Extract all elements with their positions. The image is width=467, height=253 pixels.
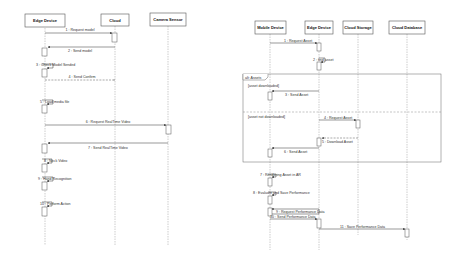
participant-cloud: Cloud: [101, 14, 129, 26]
participant-label: Cloud Database: [392, 25, 423, 30]
alt-guard: [asset not downloaded]: [248, 115, 285, 119]
participant-label: Edge Device: [307, 25, 332, 30]
message-label: 9 : Hand Recognition: [38, 177, 72, 181]
activation-bar: [317, 43, 321, 51]
message-10: 10 : Perform Action: [40, 202, 71, 206]
alt-frame-label: alt: Assets: [245, 76, 262, 80]
message-label: 1 : Request Asset: [284, 39, 312, 43]
message-label: 2 : find asset: [313, 58, 333, 62]
message-label: 6 : Request RealTime Video: [86, 120, 131, 124]
message-label: 11 : Save Performance Data: [340, 225, 385, 229]
message-6: 6 : Send Asset: [272, 148, 319, 154]
message-label: 4 : Request Asset: [324, 116, 352, 120]
alt-guard: [asset downloaded]: [248, 84, 279, 88]
participant-label: Camera Sensor: [153, 17, 183, 22]
sequence-diagrams-canvas: Edge Device Cloud Camera Sensor 1 : Requ…: [0, 0, 467, 253]
message-10: 10 : Send Performance Data: [270, 215, 317, 219]
message-label: 10 : Perform Action: [40, 202, 71, 206]
activation-bar: [42, 48, 47, 56]
activation-bar: [268, 196, 272, 204]
message-3: 3 : Send Asset: [272, 91, 319, 97]
activation-bar: [42, 164, 47, 172]
message-1: 1 : Request Asset: [270, 39, 317, 43]
message-label: 3 : Check Model Sended: [36, 63, 75, 67]
message-label: 5 : Download Asset: [322, 140, 353, 144]
participant-label: Mobile Device: [257, 25, 284, 30]
message-label: 3 : Send Asset: [285, 93, 308, 97]
message-label: 9 : Request Performance Data: [276, 210, 325, 214]
message-3: 3 : Check Model Sended: [36, 63, 75, 68]
message-8: 8 : Neck Video: [42, 159, 67, 163]
message-label: 7 : Rendering Asset in AR: [260, 173, 301, 177]
activation-bar: [405, 229, 409, 237]
participant-cloud-database: Cloud Database: [389, 21, 425, 34]
activation-bar: [112, 33, 117, 42]
message-8: 8 : Evaluate and Save Performance: [253, 191, 310, 195]
message-9: 9 : Request Performance Data: [268, 209, 325, 214]
message-9: 9 : Hand Recognition: [38, 177, 72, 181]
activation-bar: [268, 178, 272, 186]
message-label: 2 : Send model: [68, 49, 92, 53]
message-label: 8 : Evaluate and Save Performance: [253, 191, 310, 195]
message-label: 10 : Send Performance Data: [270, 215, 316, 219]
activation-bar: [42, 144, 47, 153]
message-label: 1 : Request model: [65, 28, 94, 32]
participant-camera-sensor: Camera Sensor: [150, 13, 186, 26]
message-label: 7 : Send RealTime Video: [88, 146, 128, 150]
message-label: 4 : Send Confirm: [69, 75, 96, 79]
activation-bar: [268, 149, 272, 157]
activation-bar: [356, 120, 360, 128]
activation-bar: [42, 69, 47, 77]
participant-label: Cloud: [109, 18, 121, 23]
participant-cloud-storage: Cloud Storage: [343, 21, 373, 34]
message-2: 2 : Send model: [48, 47, 115, 53]
message-4: 4 : Request Asset: [319, 116, 356, 121]
message-label: 5 : Load media file: [40, 100, 69, 104]
participant-label: Cloud Storage: [344, 25, 372, 30]
participant-mobile-device: Mobile Device: [255, 21, 286, 34]
message-2: 2 : find asset: [313, 58, 333, 62]
activation-bar: [42, 182, 47, 190]
activation-bar: [317, 138, 321, 146]
participant-edge-device: Edge Device: [25, 14, 65, 27]
right-sequence-diagram: Mobile Device Edge Device Cloud Storage …: [243, 21, 441, 250]
message-6: 6 : Request RealTime Video: [45, 120, 166, 125]
participant-edge-device: Edge Device: [305, 21, 333, 34]
message-7: 7 : Rendering Asset in AR: [260, 173, 301, 177]
activation-bar: [166, 125, 171, 134]
activation-bar: [317, 219, 321, 228]
activation-bar: [317, 62, 321, 70]
message-label: 8 : Neck Video: [44, 159, 67, 163]
message-5: 5 : Load media file: [40, 100, 69, 104]
message-4: 4 : Send Confirm: [45, 75, 115, 80]
activation-bar: [268, 92, 272, 100]
message-5: 5 : Download Asset: [322, 138, 358, 144]
message-7: 7 : Send RealTime Video: [48, 143, 168, 150]
activation-bar: [42, 105, 47, 113]
message-11: 11 : Save Performance Data: [319, 225, 405, 230]
activation-bar: [42, 207, 47, 216]
message-1: 1 : Request model: [45, 28, 112, 33]
left-sequence-diagram: Edge Device Cloud Camera Sensor 1 : Requ…: [25, 13, 186, 245]
message-label: 6 : Send Asset: [284, 150, 307, 154]
participant-label: Edge Device: [33, 18, 58, 23]
